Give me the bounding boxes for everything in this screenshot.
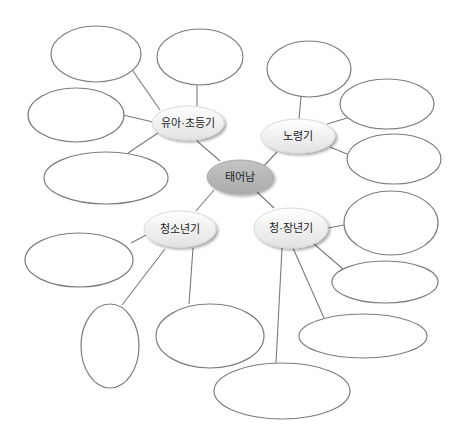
connector-adulthood-blank-4 (276, 248, 282, 363)
blank-bubble-adolescence-2[interactable] (81, 304, 139, 388)
blank-bubbles-layer (25, 26, 441, 419)
center-node-label: 태어남 (225, 171, 255, 184)
blank-bubble-adulthood-3[interactable] (299, 314, 427, 358)
stage-label-adulthood: 청·장년기 (269, 222, 313, 235)
stage-node-old-age: 노령기 (261, 119, 335, 153)
blank-bubble-old-age-1[interactable] (267, 41, 351, 97)
connector-adolescence-blank-3 (189, 248, 193, 304)
stage-node-infancy: 유아·초등기 (152, 106, 224, 140)
connector-adulthood-blank-1 (328, 225, 344, 228)
stage-label-infancy: 유아·초등기 (161, 117, 215, 130)
connector-infancy-blank-1 (133, 71, 160, 110)
connector-old-age-blank-2 (327, 118, 347, 124)
blank-bubble-adolescence-1[interactable] (25, 233, 133, 287)
blank-bubble-adulthood-2[interactable] (332, 261, 438, 303)
blank-bubble-infancy-2[interactable] (157, 29, 243, 85)
blank-bubble-adolescence-3[interactable] (156, 304, 264, 368)
connector-center-adolescence (196, 190, 214, 211)
mind-map-diagram: 유아·초등기노령기청소년기청·장년기 태어남 (0, 0, 467, 444)
connector-old-age-blank-3 (330, 147, 347, 154)
blank-bubble-adulthood-1[interactable] (344, 191, 438, 255)
blank-bubble-old-age-3[interactable] (347, 134, 441, 184)
stage-label-adolescence: 청소년기 (160, 223, 200, 236)
connector-adulthood-blank-2 (314, 244, 343, 269)
connector-adulthood-blank-3 (293, 248, 324, 318)
blank-bubble-old-age-2[interactable] (340, 79, 434, 129)
connector-old-age-blank-1 (299, 97, 301, 119)
connector-center-adulthood (257, 192, 274, 208)
center-node-layer: 태어남 (207, 160, 273, 194)
stage-label-old-age: 노령기 (283, 130, 313, 143)
blank-bubble-infancy-3[interactable] (28, 88, 124, 142)
blank-bubble-infancy-4[interactable] (44, 152, 168, 204)
connector-center-infancy (197, 141, 220, 161)
stage-node-adulthood: 청·장년기 (254, 208, 328, 248)
connector-infancy-blank-4 (128, 133, 158, 153)
blank-bubble-infancy-1[interactable] (51, 26, 141, 82)
blank-bubble-adulthood-4[interactable] (214, 363, 350, 419)
connector-infancy-blank-3 (123, 115, 153, 122)
stage-node-adolescence: 청소년기 (144, 211, 216, 247)
